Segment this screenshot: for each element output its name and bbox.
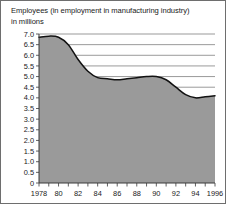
x-tick-label: 88 <box>133 189 141 198</box>
area-series <box>39 36 215 183</box>
y-tick-label: 6.5 <box>24 40 34 49</box>
plot-area: 00.51.01.52.02.53.03.54.04.55.05.56.06.5… <box>1 1 227 205</box>
x-tick-label: 86 <box>113 189 121 198</box>
x-tick-label: 80 <box>54 189 62 198</box>
area-chart-svg: 00.51.01.52.02.53.03.54.04.55.05.56.06.5… <box>1 1 227 205</box>
y-tick-label: 4.5 <box>24 83 34 92</box>
y-axis-labels: 00.51.01.52.02.53.03.54.04.55.05.56.06.5… <box>24 30 34 188</box>
x-tick-label: 82 <box>74 189 82 198</box>
y-tick-label: 2.0 <box>24 136 34 145</box>
x-axis-ticks <box>39 183 215 187</box>
x-tick-label: 94 <box>191 189 199 198</box>
y-tick-label: 3.0 <box>24 115 34 124</box>
y-tick-label: 1.5 <box>24 147 34 156</box>
y-tick-label: 4.0 <box>24 93 34 102</box>
y-tick-label: 6.0 <box>24 51 34 60</box>
y-tick-label: 2.5 <box>24 125 34 134</box>
y-tick-label: 5.0 <box>24 72 34 81</box>
x-axis-labels: 197880828486889092941996 <box>31 189 223 198</box>
x-tick-label: 92 <box>172 189 180 198</box>
x-tick-label: 1978 <box>31 189 47 198</box>
area-fill-path <box>39 36 215 183</box>
y-tick-label: 0.5 <box>24 168 34 177</box>
y-tick-label: 1.0 <box>24 157 34 166</box>
x-tick-label: 84 <box>94 189 102 198</box>
x-tick-label: 1996 <box>207 189 223 198</box>
y-tick-label: 5.5 <box>24 62 34 71</box>
y-tick-label: 0 <box>30 179 34 188</box>
x-tick-label: 90 <box>152 189 160 198</box>
chart-figure: Employees (in employment in manufacturin… <box>0 0 226 204</box>
y-tick-label: 7.0 <box>24 30 34 39</box>
y-tick-label: 3.5 <box>24 104 34 113</box>
